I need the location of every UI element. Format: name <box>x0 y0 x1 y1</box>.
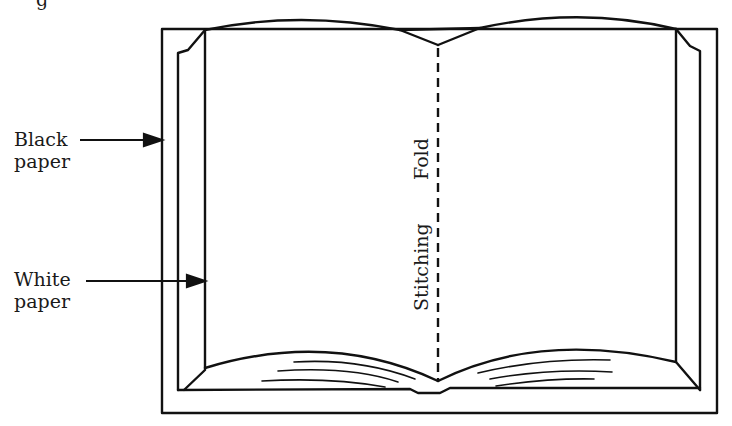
arrow-white-paper-icon <box>187 275 205 287</box>
open-book-diagram <box>0 0 732 426</box>
arrow-black-paper-icon <box>144 134 162 146</box>
label-white-paper: White paper <box>14 268 71 312</box>
outer-cover <box>162 29 717 413</box>
right-board <box>676 29 700 390</box>
left-page-top <box>205 20 438 45</box>
label-black-paper-line2: paper <box>14 150 70 172</box>
label-white-paper-line1: White <box>14 268 71 290</box>
label-black-paper: Black paper <box>14 128 70 172</box>
right-page-top <box>438 17 676 45</box>
left-page-bottom <box>205 352 438 381</box>
label-white-paper-line2: paper <box>14 290 71 312</box>
label-fold: Fold <box>410 138 432 180</box>
right-page-bottom <box>438 350 676 381</box>
label-black-paper-line1: Black <box>14 128 70 150</box>
label-stitching: Stitching <box>410 223 432 311</box>
left-board <box>178 30 205 390</box>
